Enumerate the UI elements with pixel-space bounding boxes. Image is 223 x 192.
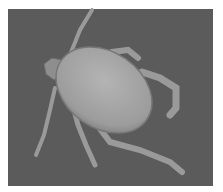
tick-illustration [0, 0, 223, 192]
